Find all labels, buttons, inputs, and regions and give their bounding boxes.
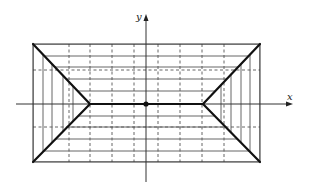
origin-dot (143, 101, 148, 106)
x-axis-label: x (287, 91, 293, 102)
diagonal-top-left (33, 44, 90, 104)
diagonal-top-right (203, 44, 260, 104)
left-solid-vertical-lines (33, 44, 73, 162)
x-axis-arrow-icon (286, 102, 293, 107)
roof-skeleton-diagram: x y (0, 0, 309, 193)
diagonal-bottom-right (203, 104, 260, 162)
diagonal-bottom-left (33, 104, 90, 162)
y-axis-arrow-icon (144, 14, 149, 21)
y-axis-label: y (135, 11, 142, 22)
right-solid-vertical-lines (221, 44, 260, 162)
